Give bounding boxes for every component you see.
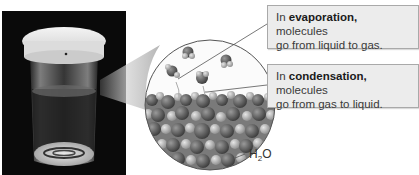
callout-prefix: In (276, 11, 289, 23)
callout-prefix: In (276, 70, 289, 82)
h2o-label: H2O (249, 147, 271, 163)
callout-text-line2: go from liquid to gas. (276, 39, 383, 51)
callout-text-line2: go from gas to liquid. (276, 98, 383, 110)
evaporation-callout: In evaporation, molecules go from liquid… (267, 5, 419, 49)
callout-text: molecules (276, 25, 328, 37)
condensation-term: condensation, (289, 70, 367, 82)
callout-text: molecules (276, 84, 328, 96)
condensation-callout: In condensation, molecules go from gas t… (267, 64, 419, 108)
evaporation-term: evaporation, (289, 11, 357, 23)
